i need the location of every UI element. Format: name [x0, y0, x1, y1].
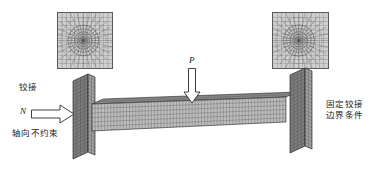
label-fixed-hinge-line1: 固定铰接	[326, 99, 363, 110]
label-hinged: 铰接	[19, 82, 38, 93]
figure-canvas: 铰接 N 轴向不约束 P 固定铰接 边界条件	[0, 0, 384, 170]
load-arrow-axial	[31, 104, 75, 124]
label-axial-load-N: N	[20, 106, 26, 116]
label-fixed-hinge-line2: 边界条件	[326, 110, 363, 121]
load-arrow-vertical	[183, 68, 201, 104]
label-vertical-load-P: P	[189, 55, 195, 65]
end-plate-right	[290, 68, 312, 153]
label-axial-unconstrained: 轴向不约束	[12, 128, 59, 139]
